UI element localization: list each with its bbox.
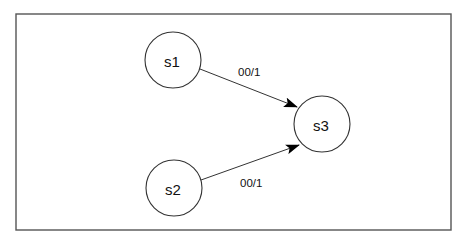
edge-label-s2-s3: 00/1	[240, 177, 262, 189]
diagram-frame	[16, 14, 451, 230]
state-diagram: 00/1 00/1 s1 s2 s3	[0, 0, 469, 243]
edge-arrow-s2-s3	[201, 145, 299, 180]
state-label-s2: s2	[165, 181, 181, 198]
state-s2: s2	[146, 160, 202, 216]
state-s3: s3	[294, 96, 350, 152]
state-label-s1: s1	[164, 53, 180, 70]
transition-s1-s3: 00/1	[200, 66, 297, 107]
state-label-s3: s3	[313, 117, 329, 134]
edge-label-s1-s3: 00/1	[238, 66, 260, 78]
transition-s2-s3: 00/1	[201, 145, 299, 189]
state-s1: s1	[145, 32, 201, 88]
